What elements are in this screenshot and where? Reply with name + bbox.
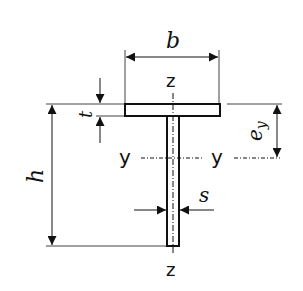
ey-label: ey: [243, 120, 269, 141]
h-label: h: [23, 169, 48, 183]
y-label-left: y: [119, 145, 131, 169]
z-label-bottom: z: [166, 259, 175, 280]
y-label-right: y: [211, 145, 223, 169]
b-label: b: [166, 28, 180, 53]
s-label: s: [199, 183, 209, 207]
z-label-top: z: [166, 70, 175, 91]
t-label: t: [75, 110, 96, 118]
t-section-diagram: b z h t ey y y s z: [0, 0, 303, 291]
